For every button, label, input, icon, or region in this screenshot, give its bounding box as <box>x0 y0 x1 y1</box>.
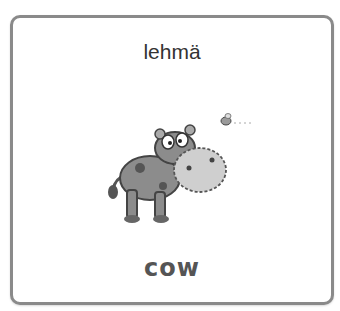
finnish-word: lehmä <box>13 40 331 64</box>
flashcard[interactable]: lehmä <box>10 15 334 305</box>
bee-icon <box>221 114 253 126</box>
cow-illustration-icon <box>95 98 265 228</box>
english-word: cow <box>13 254 331 282</box>
